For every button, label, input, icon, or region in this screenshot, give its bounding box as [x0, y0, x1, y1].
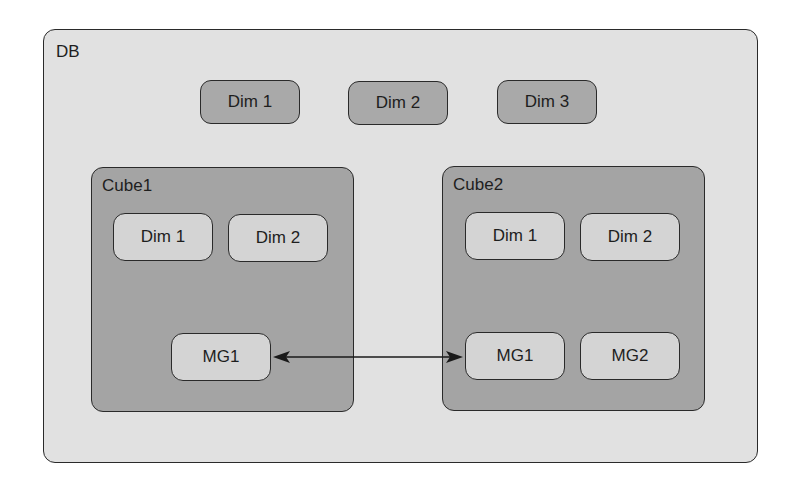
cube2-dimension-2-label: Dim 2	[608, 227, 652, 247]
cube2-mg2: MG2	[580, 332, 680, 380]
db-dimension-2-label: Dim 2	[376, 93, 420, 113]
cube1-mg1: MG1	[171, 333, 271, 381]
cube1-mg1-label: MG1	[203, 347, 240, 367]
cube2-mg1-label: MG1	[497, 346, 534, 366]
cube1-dimension-2: Dim 2	[228, 214, 328, 262]
cube1-dimension-1: Dim 1	[113, 213, 213, 261]
db-dimension-1-label: Dim 1	[228, 92, 272, 112]
cube2-mg2-label: MG2	[612, 346, 649, 366]
cube2-dimension-2: Dim 2	[580, 213, 680, 261]
cube1-dimension-2-label: Dim 2	[256, 228, 300, 248]
db-label: DB	[56, 42, 80, 62]
cube2-label: Cube2	[453, 175, 503, 195]
cube2-dimension-1-label: Dim 1	[493, 226, 537, 246]
cube1-dimension-1-label: Dim 1	[141, 227, 185, 247]
cube2-dimension-1: Dim 1	[465, 212, 565, 260]
cube1-label: Cube1	[102, 176, 152, 196]
db-dimension-3: Dim 3	[497, 80, 597, 124]
cube2-mg1: MG1	[465, 332, 565, 380]
db-dimension-2: Dim 2	[348, 81, 448, 125]
db-dimension-1: Dim 1	[200, 80, 300, 124]
db-dimension-3-label: Dim 3	[525, 92, 569, 112]
